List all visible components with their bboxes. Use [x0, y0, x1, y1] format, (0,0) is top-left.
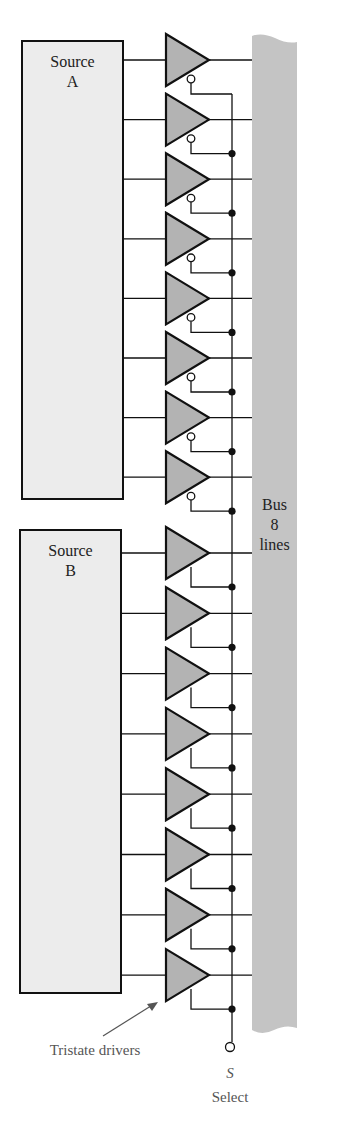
enable-wire — [191, 202, 232, 213]
inverter-bubble-icon — [187, 492, 195, 500]
tristate-buffer-icon — [166, 587, 209, 639]
enable-wire — [191, 83, 232, 94]
select-label: Select — [195, 1087, 265, 1107]
inverter-bubble-icon — [187, 75, 195, 83]
inverter-bubble-icon — [187, 373, 195, 381]
tristate-buffer-icon — [166, 829, 209, 881]
tristate-buffer-icon — [166, 889, 209, 941]
arrow-head-icon — [147, 1002, 158, 1011]
tristate-buffer-icon — [166, 768, 209, 820]
enable-wire — [191, 869, 232, 889]
junction-dot-icon — [228, 388, 235, 395]
junction-dot-icon — [228, 210, 235, 217]
junction-dot-icon — [228, 269, 235, 276]
bus-label: Bus 8 lines — [252, 495, 297, 555]
inverter-bubble-icon — [187, 314, 195, 322]
enable-wire — [191, 627, 232, 647]
junction-dot-icon — [228, 764, 235, 771]
inverter-bubble-icon — [187, 135, 195, 143]
junction-dot-icon — [228, 704, 235, 711]
junction-dot-icon — [228, 150, 235, 157]
enable-wire — [191, 929, 232, 949]
junction-dot-icon — [228, 329, 235, 336]
junction-dot-icon — [228, 945, 235, 952]
tristate-buffer-icon — [166, 648, 209, 700]
enable-wire — [191, 321, 232, 332]
inverter-bubble-icon — [187, 194, 195, 202]
tristate-buffer-icon — [166, 949, 209, 1001]
enable-wire — [191, 748, 232, 768]
enable-wire — [191, 808, 232, 828]
tristate-drivers-label: Tristate drivers — [20, 1040, 170, 1060]
select-terminal[interactable] — [226, 1043, 235, 1052]
source-a-label: Source A — [22, 52, 123, 92]
source-a-box — [22, 41, 123, 499]
junction-dot-icon — [228, 825, 235, 832]
source-b-label: Source B — [20, 541, 121, 581]
enable-wire — [191, 688, 232, 708]
enable-wire — [191, 500, 232, 511]
tristate-buffer-icon — [166, 708, 209, 760]
junction-dot-icon — [228, 885, 235, 892]
annotation-arrow — [103, 1004, 154, 1036]
enable-wire — [191, 567, 232, 587]
enable-wire — [191, 262, 232, 273]
junction-dot-icon — [228, 448, 235, 455]
junction-dot-icon — [228, 1006, 235, 1013]
enable-wire — [191, 381, 232, 392]
inverter-bubble-icon — [187, 433, 195, 441]
junction-dot-icon — [228, 583, 235, 590]
tristate-buffer-icon — [166, 527, 209, 579]
source-b-box — [20, 530, 121, 993]
junction-dot-icon — [228, 644, 235, 651]
enable-wire — [191, 441, 232, 452]
enable-wire — [191, 989, 232, 1009]
select-symbol: S — [200, 1063, 260, 1083]
junction-dot-icon — [228, 508, 235, 515]
inverter-bubble-icon — [187, 254, 195, 262]
enable-wire — [191, 143, 232, 154]
